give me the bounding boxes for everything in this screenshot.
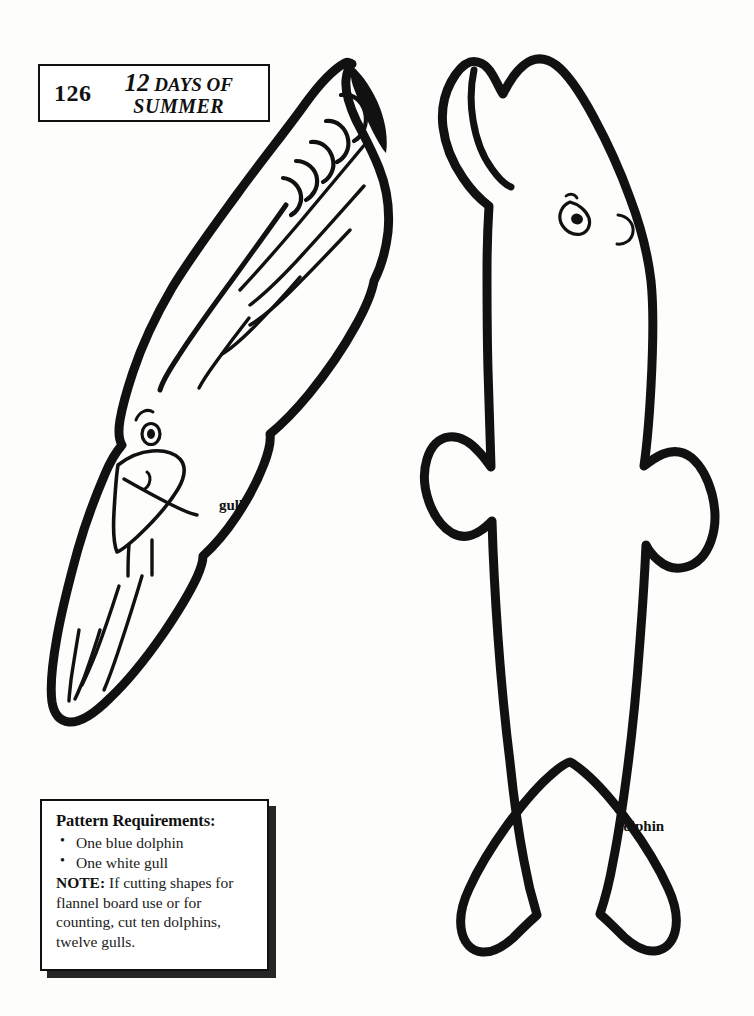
gull-brow-line — [136, 410, 153, 420]
dolphin-figure — [425, 59, 715, 952]
page-title-line-2: SUMMER — [98, 96, 261, 116]
gull-wing-line-5 — [199, 318, 249, 388]
pattern-requirements-box: Pattern Requirements: One blue dolphin O… — [40, 799, 269, 971]
requirements-list: One blue dolphin One white gull — [56, 833, 255, 872]
dolphin-cheek-mark — [617, 215, 633, 244]
requirements-heading: Pattern Requirements: — [56, 811, 255, 831]
page-header-plate: 126 12 DAYS OF SUMMER — [38, 64, 270, 122]
gull-eye-pupil — [147, 429, 155, 439]
page-title: 12 DAYS OF SUMMER — [98, 70, 269, 116]
requirements-note-label: NOTE: — [56, 874, 105, 891]
gull-wing-edge — [160, 205, 286, 390]
gull-beak-gape — [124, 479, 197, 515]
requirements-note: NOTE: If cutting shapes for flannel boar… — [56, 873, 255, 951]
gull-beak-outline — [114, 451, 184, 552]
gull-feather-arc-2 — [326, 121, 348, 162]
dolphin-eye-brow — [566, 194, 577, 198]
page-title-line-1: 12 DAYS OF — [98, 70, 261, 96]
worksheet-page: 126 12 DAYS OF SUMMER gull dolphin Patte… — [0, 0, 754, 1016]
gull-beak-nostril — [142, 472, 150, 489]
gull-wing-line-2 — [250, 186, 364, 305]
dolphin-label: dolphin — [615, 818, 664, 835]
list-item: One blue dolphin — [56, 833, 255, 853]
gull-figure — [51, 62, 388, 722]
gull-breast-line — [128, 545, 129, 576]
dolphin-eye-pupil — [570, 212, 585, 226]
page-number: 126 — [40, 81, 98, 105]
list-item: One white gull — [56, 853, 255, 873]
gull-label: gull — [219, 497, 243, 514]
page-title-number: 12 — [125, 69, 150, 96]
page-title-words: DAYS OF — [154, 74, 233, 95]
